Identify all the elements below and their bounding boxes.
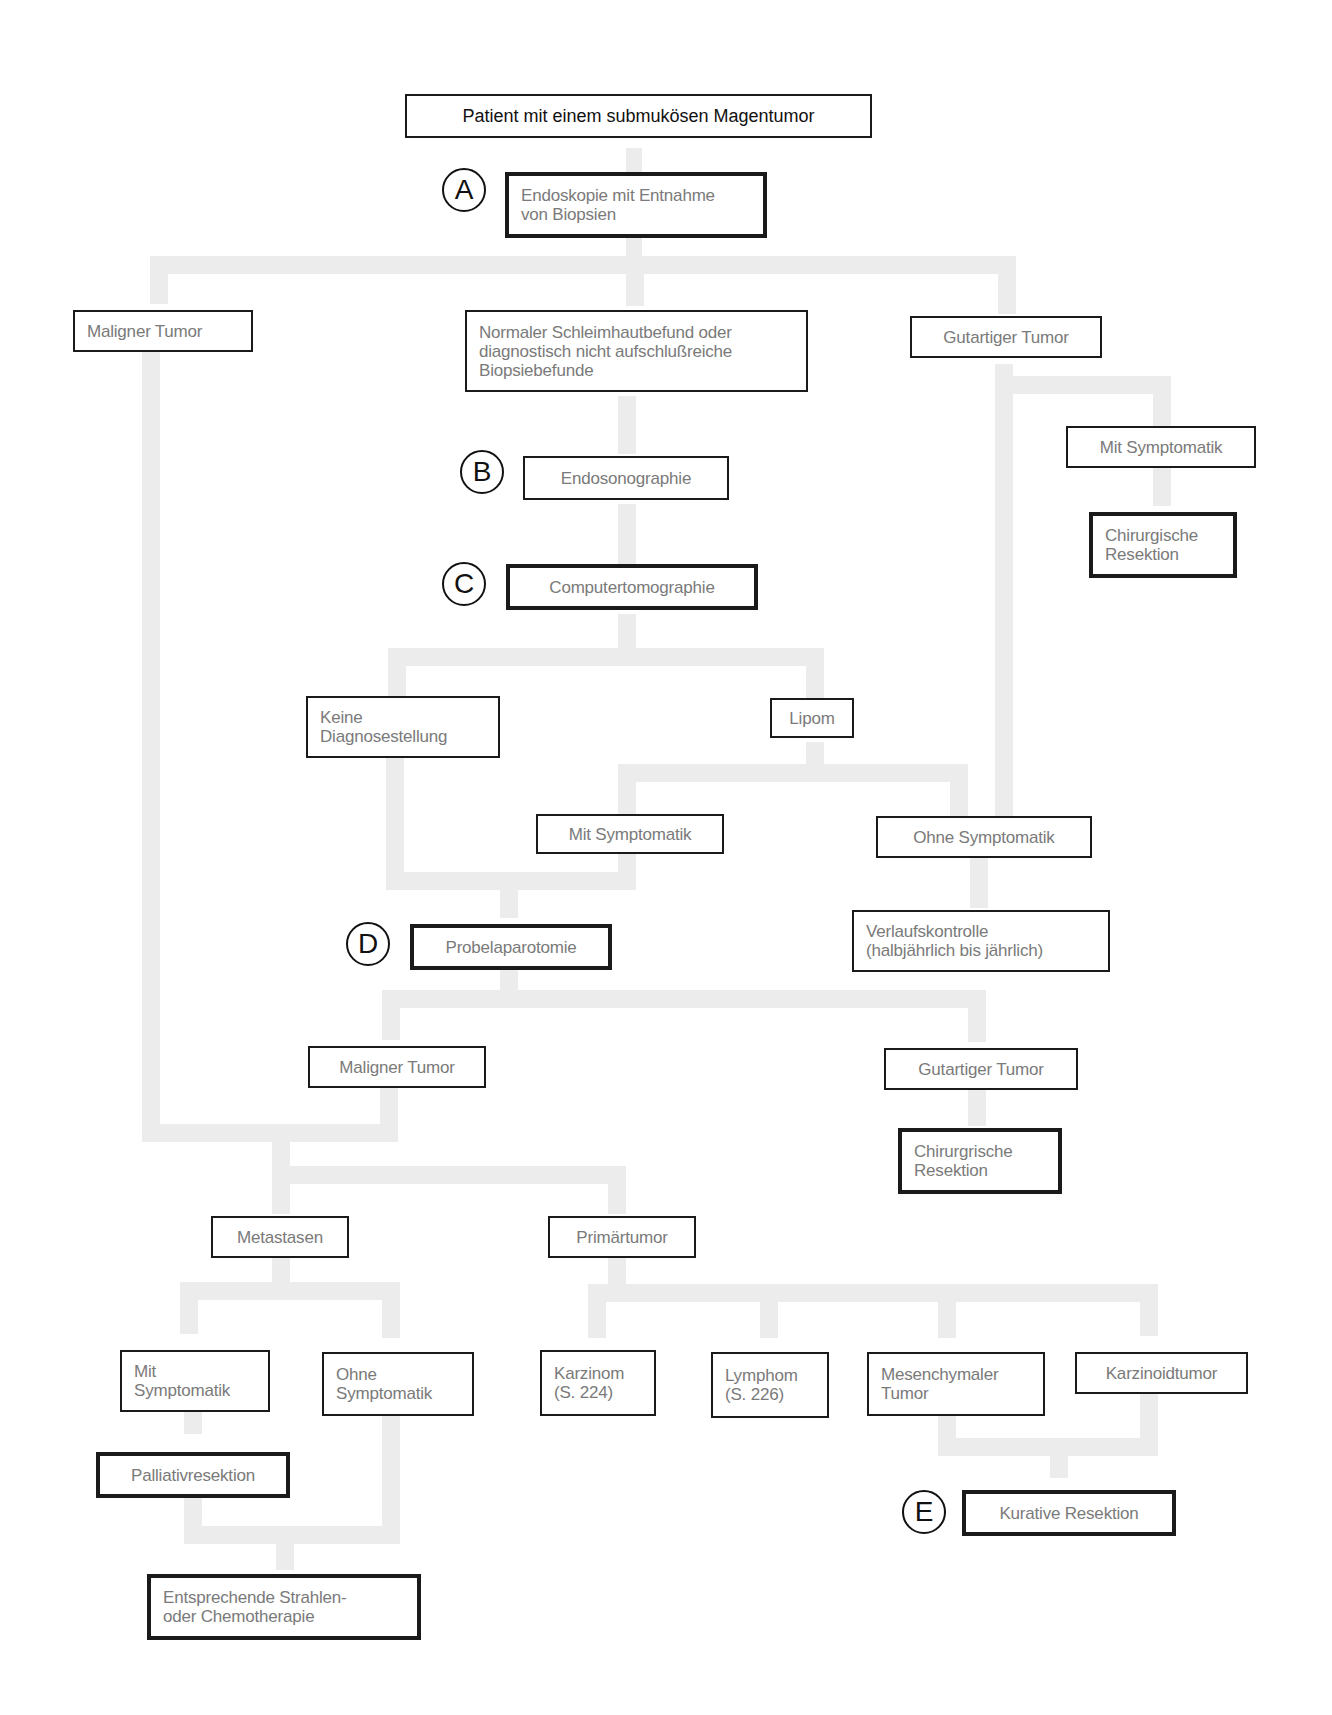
connector <box>618 504 636 564</box>
connector <box>142 352 160 1142</box>
node-karzinoidtumor: Karzinoidtumor <box>1075 1352 1248 1394</box>
node-kurative-resektion: Kurative Resektion <box>962 1490 1176 1536</box>
connector <box>608 1166 626 1214</box>
node-mit-symptomatik-1: Mit Symptomatik <box>1066 426 1256 468</box>
connector <box>998 256 1016 314</box>
flowchart-canvas: Patient mit einem submukösen Magentumor … <box>0 0 1332 1715</box>
connector <box>150 256 1015 274</box>
connector <box>618 764 636 814</box>
connector <box>588 1284 1158 1302</box>
connector <box>950 764 968 816</box>
node-gutartiger-tumor-2: Gutartiger Tumor <box>884 1048 1078 1090</box>
connector <box>386 758 404 886</box>
node-mesenchymaler-tumor: Mesenchymaler Tumor <box>867 1352 1045 1416</box>
connector <box>1140 1284 1158 1336</box>
connector <box>806 648 824 704</box>
connector <box>388 648 406 698</box>
node-palliativresektion: Palliativresektion <box>96 1452 290 1498</box>
node-lipom: Lipom <box>770 698 854 738</box>
title-text: Patient mit einem submukösen Magentumor <box>462 107 814 126</box>
node-strahlen-chemo: Entsprechende Strahlen- oder Chemotherap… <box>147 1574 421 1640</box>
node-chirurgische-resektion-2: Chirurgrische Resektion <box>898 1128 1062 1194</box>
node-lymphom: Lymphom (S. 226) <box>711 1352 829 1418</box>
connector <box>180 1282 400 1300</box>
connector <box>272 1166 290 1214</box>
marker-a: A <box>442 168 486 212</box>
connector <box>382 1282 400 1338</box>
node-primaertumor: Primärtumor <box>548 1216 696 1258</box>
connector <box>1050 1446 1068 1478</box>
connector <box>995 364 1013 816</box>
connector <box>382 1404 400 1542</box>
connector <box>380 1080 398 1142</box>
connector <box>938 1284 956 1338</box>
connector <box>626 256 644 306</box>
marker-d: D <box>346 922 390 966</box>
connector <box>760 1284 778 1338</box>
marker-b: B <box>460 450 504 494</box>
node-karzinom: Karzinom (S. 224) <box>540 1350 656 1416</box>
connector <box>180 1282 198 1334</box>
node-computertomographie: Computertomographie <box>506 564 758 610</box>
connector <box>618 396 636 454</box>
connector <box>142 1124 397 1142</box>
connector <box>272 1166 626 1184</box>
node-endosonographie: Endosonographie <box>523 456 729 500</box>
connector <box>500 880 518 918</box>
node-keine-diagnose: Keine Diagnosestellung <box>306 696 500 758</box>
node-gutartiger-tumor-1: Gutartiger Tumor <box>910 316 1102 358</box>
node-metastasen: Metastasen <box>211 1216 349 1258</box>
connector <box>995 376 1171 394</box>
connector <box>1153 466 1171 506</box>
marker-e: E <box>902 1490 946 1534</box>
connector <box>388 648 824 666</box>
marker-c: C <box>442 562 486 606</box>
node-probelaparotomie: Probelaparotomie <box>410 924 612 970</box>
node-mit-symptomatik-3: Mit Symptomatik <box>120 1350 270 1412</box>
node-chirurgische-resektion-1: Chirurgische Resektion <box>1089 512 1237 578</box>
node-maligner-tumor-1: Maligner Tumor <box>73 310 253 352</box>
connector <box>150 256 168 304</box>
node-endoskopie: Endoskopie mit Entnahme von Biopsien <box>505 172 767 238</box>
node-verlaufskontrolle: Verlaufskontrolle (halbjährlich bis jähr… <box>852 910 1110 972</box>
node-ohne-symptomatik-2: Ohne Symptomatik <box>322 1352 474 1416</box>
title-box: Patient mit einem submukösen Magentumor <box>405 94 872 138</box>
connector <box>588 1284 606 1338</box>
node-normaler-befund: Normaler Schleimhautbefund oder diagnost… <box>465 310 808 392</box>
connector <box>970 858 988 908</box>
connector <box>618 764 968 782</box>
connector <box>938 1438 1158 1456</box>
connector <box>626 148 642 172</box>
node-mit-symptomatik-2: Mit Symptomatik <box>536 814 724 854</box>
connector <box>1153 376 1171 426</box>
connector <box>276 1534 294 1570</box>
node-maligner-tumor-2: Maligner Tumor <box>308 1046 486 1088</box>
connector <box>968 990 986 1042</box>
connector <box>382 990 400 1040</box>
node-ohne-symptomatik-1: Ohne Symptomatik <box>876 816 1092 858</box>
connector <box>382 990 986 1008</box>
